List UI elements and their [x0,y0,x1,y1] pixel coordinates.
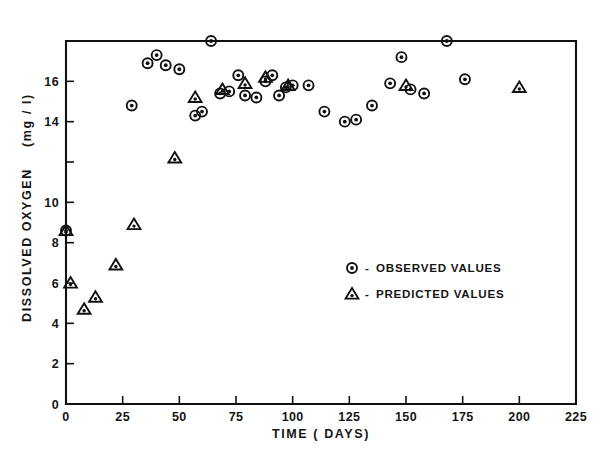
dissolved-oxygen-scatter-chart: 0255075100125150175200225 02468101416 -O… [0,0,607,453]
y-tick-label: 16 [44,75,59,89]
marker-center-dot [323,110,327,114]
marker-center-dot [69,283,72,286]
marker-center-dot [404,85,407,88]
marker-center-dot [264,77,267,80]
marker-center-dot [343,120,347,124]
y-tick-label: 8 [52,236,59,250]
legend-label: OBSERVED VALUES [376,261,502,274]
y-tick-label: 14 [44,115,59,129]
x-tick-label: 0 [62,410,69,424]
marker-center-dot [194,97,197,100]
marker-center-dot [236,73,240,77]
y-tick-label: 4 [52,317,59,331]
marker-center-dot [209,39,213,43]
x-tick-label: 175 [452,410,474,424]
marker-center-dot [130,104,134,108]
legend-label: PREDICTED VALUES [376,287,504,300]
marker-center-dot [193,114,197,118]
y-axis-units-label: (mg / l) [20,93,34,147]
marker-center-dot [132,224,135,227]
marker-center-dot [200,110,204,114]
marker-center-dot [388,81,392,85]
legend-dash: - [365,287,370,300]
legend-dash: - [365,261,370,274]
marker-center-dot [82,309,85,312]
marker-center-dot [255,96,259,100]
x-tick-label: 150 [395,410,417,424]
marker-center-dot [518,87,521,90]
marker-center-dot [173,158,176,161]
chart-background [0,0,607,453]
marker-center-dot [114,265,117,268]
marker-center-dot [445,39,449,43]
marker-center-dot [307,83,311,87]
marker-center-dot [400,55,404,59]
x-axis-title: TIME ( DAYS) [272,427,370,441]
marker-center-dot [270,73,274,77]
marker-center-dot [177,67,181,71]
legend-item: -PREDICTED VALUES [346,287,505,300]
marker-center-dot [277,94,281,98]
marker-center-dot [463,77,467,81]
marker-center-dot [146,61,150,65]
x-tick-label: 200 [508,410,530,424]
marker-center-dot [350,294,353,297]
marker-center-dot [164,63,168,67]
y-tick-label: 6 [52,277,59,291]
marker-center-dot [243,83,246,86]
marker-center-dot [221,89,224,92]
x-tick-label: 50 [172,410,187,424]
x-tick-label: 225 [565,410,587,424]
marker-center-dot [354,118,358,122]
marker-center-dot [155,53,159,57]
marker-center-dot [350,266,354,270]
x-tick-label: 125 [338,410,360,424]
marker-center-dot [94,297,97,300]
x-tick-label: 75 [229,410,244,424]
marker-center-dot [370,104,374,108]
x-tick-label: 100 [282,410,304,424]
y-tick-label: 10 [44,196,59,210]
y-tick-label: 0 [52,398,59,412]
y-tick-label: 2 [52,357,59,371]
x-tick-label: 25 [115,410,130,424]
marker-center-dot [243,94,247,98]
y-axis-title: DISSOLVED OXYGEN [20,168,34,322]
marker-center-dot [422,92,426,96]
marker-center-dot [286,85,289,88]
marker-center-dot [64,230,67,233]
